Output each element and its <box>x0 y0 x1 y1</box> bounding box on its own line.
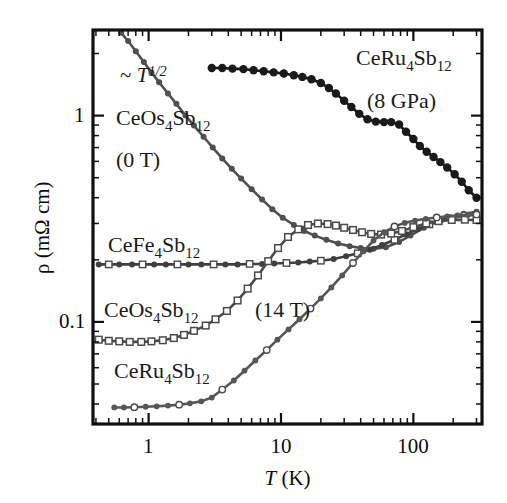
resistivity-plot <box>0 0 507 503</box>
formula-sub-2: 12 <box>195 371 210 387</box>
formula-part-a: CeRu <box>356 45 406 70</box>
power-law-prefix: ~ <box>120 63 137 87</box>
annotation-ceru4sb12-8gpa-pressure: (8 GPa) <box>367 88 436 114</box>
annotation-ceos4sb12-14t-formula: CeOs4Sb12 <box>104 297 199 327</box>
formula-sub-2: 12 <box>437 58 452 74</box>
x-tick-label-10: 10 <box>270 434 291 459</box>
y-tick-label-1: 1 <box>74 103 85 128</box>
power-law-var: T <box>137 63 149 87</box>
formula-sub-2: 12 <box>184 310 199 326</box>
formula-part-a: CeOs <box>116 105 165 130</box>
x-axis-title: T (K) <box>265 466 311 491</box>
annotation-ceos4sb12-14t-field: (14 T) <box>255 297 310 323</box>
x-tick-label-100: 100 <box>397 434 429 459</box>
annotation-ceos4sb12-0t-field: (0 T) <box>116 147 160 173</box>
power-law-exponent: 1/2 <box>148 63 166 79</box>
formula-part-b: Sb <box>172 358 195 383</box>
formula-part-b: Sb <box>160 297 183 322</box>
annotation-ceos4sb12-0t-formula: CeOs4Sb12 <box>116 105 211 135</box>
x-axis-title-unit: (K) <box>281 466 310 490</box>
formula-part-b: Sb <box>162 232 185 257</box>
annotation-ceru4sb12-8gpa-formula: CeRu4Sb12 <box>356 45 452 75</box>
annotation-cefe4sb12-formula: CeFe4Sb12 <box>108 232 200 262</box>
formula-sub-2: 12 <box>185 245 200 261</box>
formula-sub-1: 4 <box>406 58 413 74</box>
data-series <box>208 64 481 202</box>
annotation-ceru4sb12-formula: CeRu4Sb12 <box>114 358 210 388</box>
formula-part-b: Sb <box>414 45 437 70</box>
formula-part-a: CeRu <box>114 358 164 383</box>
y-tick-label-0.1: 0.1 <box>59 309 85 334</box>
formula-sub-1: 4 <box>154 245 161 261</box>
formula-sub-2: 12 <box>196 118 211 134</box>
formula-sub-1: 4 <box>164 371 171 387</box>
formula-part-a: CeFe <box>108 232 154 257</box>
annotation-power-law: ~ T1/2 <box>120 63 167 88</box>
y-axis-title: ρ (mΩ cm) <box>30 181 55 274</box>
x-axis-title-var: T <box>265 466 277 490</box>
x-tick-label-1: 1 <box>143 434 154 459</box>
formula-part-b: Sb <box>172 105 195 130</box>
figure-root: 1 10 100 1 0.1 T (K) ρ (mΩ cm) ~ T1/2 Ce… <box>0 0 507 503</box>
formula-part-a: CeOs <box>104 297 153 322</box>
